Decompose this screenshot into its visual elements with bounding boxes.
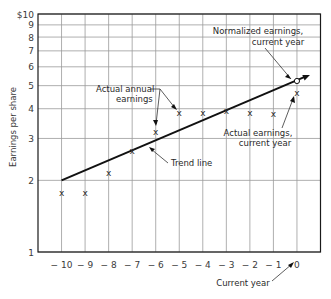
y-tick-label: 5 (28, 81, 34, 91)
y-tick-label: 3 (28, 134, 34, 144)
annotation-normalized-line2: current year (252, 37, 305, 47)
annotation-normalized-leader (265, 48, 291, 79)
y-tick-label: 7 (28, 46, 34, 56)
annotation-actual-current-leader (282, 99, 293, 128)
x-tick-label: − 10 (51, 260, 73, 270)
x-tick-label: − 8 (101, 260, 117, 270)
actual-earnings-point: x (200, 108, 206, 118)
x-tick-label: − 7 (124, 260, 140, 270)
actual-earnings-point: x (59, 188, 65, 198)
y-tick-label: 9 (28, 20, 34, 30)
annotation-actual-annual-leader-b (160, 89, 175, 108)
actual-earnings-point: x (177, 108, 183, 118)
actual-earnings-point: x (130, 146, 136, 156)
actual-earnings-point: x (224, 106, 230, 116)
x-tick-labels: − 10− 9− 8− 7− 6− 5− 4− 3− 2− 10 (51, 260, 300, 270)
x-tick-label: − 6 (148, 260, 164, 270)
normalized-earnings-group (294, 78, 299, 83)
y-tick-label: 4 (28, 104, 34, 114)
y-tick-label: $10 (17, 10, 34, 20)
earnings-chart: 123456789$10 − 10− 9− 8− 7− 6− 5− 4− 3− … (0, 0, 331, 299)
x-tick-label: − 5 (171, 260, 187, 270)
y-axis-title: Earnings per share (8, 87, 18, 167)
annotation-actual-annual-line1: Actual annual (96, 84, 154, 94)
annotation-actual-annual: Actual annual earnings (96, 84, 177, 126)
annotation-actual-current-line1: Actual earnings, (224, 128, 293, 138)
normalized-earnings-point (294, 78, 299, 83)
actual-earnings-point: x (247, 108, 253, 118)
arrowhead-icon (285, 74, 291, 79)
actual-earnings-point: x (271, 109, 277, 119)
annotation-actual-annual-line2: earnings (116, 94, 153, 104)
y-tick-label: 2 (28, 176, 34, 186)
annotation-normalized-line1: Normalized earnings, (213, 26, 303, 36)
y-tick-labels: 123456789$10 (17, 10, 34, 258)
x-tick-label: − 9 (77, 260, 93, 270)
actual-earnings-point: x (106, 168, 112, 178)
actual-earnings-point: x (294, 88, 300, 98)
annotation-actual-current-line2: current year (239, 138, 292, 148)
annotation-current-year-text: Current year (216, 278, 270, 288)
x-tick-label: − 3 (218, 260, 234, 270)
x-tick-label: 0 (294, 260, 300, 270)
y-tick-label: 6 (28, 62, 34, 72)
y-tick-label: 8 (28, 33, 34, 43)
x-tick-label: − 4 (195, 260, 211, 270)
y-tick-label: 1 (28, 248, 34, 258)
actual-earnings-point: x (153, 127, 159, 137)
x-tick-label: − 2 (242, 260, 258, 270)
annotation-trend-line-text: Trend line (170, 158, 212, 168)
actual-earnings-point: x (82, 188, 88, 198)
annotation-actual-current: Actual earnings, current year (224, 96, 295, 148)
annotation-trend-line-leader (151, 149, 168, 163)
x-tick-label: − 1 (265, 260, 281, 270)
